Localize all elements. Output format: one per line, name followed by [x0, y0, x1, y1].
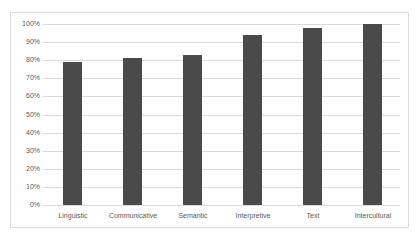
y-axis-tick-label: 0% — [12, 201, 40, 209]
y-axis-tick-label: 30% — [12, 147, 40, 155]
y-axis-tick-label: 80% — [12, 56, 40, 64]
bar-linguistic — [63, 62, 82, 205]
y-axis-tick-label: 50% — [12, 111, 40, 119]
bar-chart: 0%10%20%30%40%50%60%70%80%90%100%Linguis… — [0, 0, 420, 237]
y-axis-tick-label: 10% — [12, 183, 40, 191]
y-axis-tick-label: 90% — [12, 38, 40, 46]
bar-text — [303, 28, 322, 205]
gridline — [43, 169, 400, 170]
x-axis-category-label: Linguistic — [43, 211, 103, 220]
gridline — [43, 24, 400, 25]
gridline — [43, 151, 400, 152]
bar-semantic — [183, 55, 202, 205]
gridline — [43, 60, 400, 61]
gridline — [43, 78, 400, 79]
x-axis-category-label: Semantic — [163, 211, 223, 220]
gridline — [43, 187, 400, 188]
x-axis-category-label: Text — [283, 211, 343, 220]
y-axis-tick-label: 70% — [12, 74, 40, 82]
x-axis-category-label: Intercultural — [343, 211, 403, 220]
gridline — [43, 96, 400, 97]
x-axis-category-label: Interpretive — [223, 211, 283, 220]
y-axis-tick-label: 20% — [12, 165, 40, 173]
y-axis-tick-label: 60% — [12, 92, 40, 100]
bar-intercultural — [363, 24, 382, 205]
gridline — [43, 133, 400, 134]
y-axis-tick-label: 100% — [12, 20, 40, 28]
bar-interpretive — [243, 35, 262, 205]
y-axis-tick-label: 40% — [12, 129, 40, 137]
bar-communicative — [123, 58, 142, 205]
gridline — [43, 42, 400, 43]
gridline — [43, 205, 400, 206]
x-axis-category-label: Communicative — [103, 211, 163, 220]
gridline — [43, 115, 400, 116]
